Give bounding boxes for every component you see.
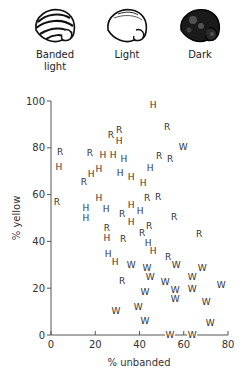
data-point-w: W [217,280,226,290]
x-tick-label: 80 [222,339,235,350]
data-point-h: H [112,257,119,267]
data-point-h: H [150,246,157,256]
data-point-w: W [206,318,215,328]
y-tick-label: 100 [26,96,45,107]
y-tick-label: 0 [39,330,45,341]
x-tick-label: 0 [48,339,54,350]
data-point-w: W [141,287,150,297]
data-point-r: R [196,229,202,239]
data-point-h: H [96,164,103,174]
data-point-h: H [117,168,124,178]
data-point-w: W [202,297,211,307]
data-point-w: W [188,284,197,294]
data-point-r: R [156,151,162,161]
data-point-w: W [171,294,180,304]
data-point-r: R [116,125,122,135]
data-point-w: W [161,277,170,287]
data-point-h: H [105,249,112,259]
y-tick-label: 20 [32,283,45,294]
data-point-h: H [104,233,111,243]
x-tick-label: 40 [133,339,146,350]
data-point-h: H [121,154,128,164]
data-point-h: H [116,136,123,146]
data-point-w: W [198,263,207,273]
data-point-w: W [141,316,150,326]
data-point-w: W [179,142,188,152]
y-tick-label: 80 [32,142,45,153]
data-point-w: W [146,272,155,282]
data-point-h: H [100,150,107,160]
data-point-h: H [147,163,154,173]
data-point-r: R [165,252,171,262]
data-point-r: R [120,234,126,244]
data-point-h: H [103,204,110,214]
data-point-w: W [172,260,181,270]
data-point-r: R [54,197,60,207]
scatter-plot: 020406080100020406080 HRRRHWRHRHHHRRHHHR… [0,0,245,378]
data-point-h: H [128,217,135,227]
data-point-h: H [137,206,144,216]
data-points: HRRRHWRHRHHHRRHHHRHHHRHRRHHHRHHRHRHRRRRH… [54,100,226,340]
data-point-h: H [128,200,135,210]
data-point-r: R [108,130,114,140]
data-point-w: W [127,260,136,270]
data-point-r: R [144,193,150,203]
y-tick-label: 40 [32,236,45,247]
data-point-r: R [57,147,63,157]
x-tick-label: 20 [89,339,102,350]
data-point-h: H [150,100,157,110]
y-tick-label: 60 [32,189,45,200]
data-point-h: H [56,162,63,172]
data-point-r: R [139,228,145,238]
y-axis-label: % yellow [11,196,22,241]
data-point-h: H [140,178,147,188]
data-point-r: R [155,192,161,202]
data-point-h: H [88,169,95,179]
data-point-r: R [171,212,177,222]
x-tick-label: 60 [177,339,190,350]
data-point-r: R [167,154,173,164]
data-point-r: R [119,276,125,286]
data-point-r: R [81,177,87,187]
data-point-r: R [104,223,110,233]
data-point-w: W [188,330,197,340]
data-point-w: W [188,272,197,282]
data-point-r: R [146,221,152,231]
data-point-w: W [112,306,121,316]
data-point-h: H [83,213,90,223]
data-point-r: R [164,122,170,132]
data-point-r: R [119,209,125,219]
data-point-w: W [134,302,143,312]
data-point-h: H [110,150,117,160]
data-point-h: H [96,193,103,203]
x-axis-label: % unbanded [107,357,170,368]
data-point-w: W [166,330,175,340]
data-point-r: R [87,148,93,158]
data-point-h: H [128,172,135,182]
data-point-h: H [83,203,90,213]
